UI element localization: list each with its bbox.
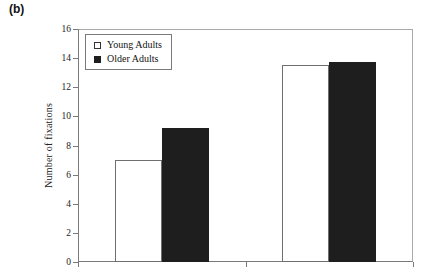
- legend-item-young-adults: Young Adults: [94, 39, 162, 51]
- legend-label-young-adults: Young Adults: [107, 39, 162, 51]
- bar-older-adults-group2: [329, 62, 376, 262]
- y-tick-mark-4: [73, 204, 78, 205]
- y-tick-mark-12: [73, 87, 78, 88]
- y-tick-label-10: 10: [40, 111, 71, 121]
- y-tick-label-12: 12: [40, 82, 71, 92]
- legend-swatch-older-adults: [94, 56, 101, 63]
- y-tick-label-8: 8: [40, 141, 71, 151]
- legend-item-older-adults: Older Adults: [94, 53, 162, 65]
- figure-panel-b: (b) Number of fixations Young Adults Old…: [0, 0, 425, 275]
- y-tick-mark-14: [73, 58, 78, 59]
- y-tick-label-6: 6: [40, 170, 71, 180]
- legend: Young Adults Older Adults: [85, 34, 172, 70]
- y-tick-mark-8: [73, 146, 78, 147]
- legend-swatch-young-adults: [94, 42, 101, 49]
- y-tick-mark-10: [73, 116, 78, 117]
- figure-label: (b): [9, 2, 24, 16]
- bar-older-adults-group1: [162, 128, 209, 262]
- y-tick-mark-2: [73, 233, 78, 234]
- y-tick-mark-6: [73, 175, 78, 176]
- y-tick-label-0: 0: [40, 257, 71, 267]
- x-tick-mark-3: [413, 262, 414, 267]
- y-tick-label-2: 2: [40, 228, 71, 238]
- bar-young-adults-group1: [115, 160, 162, 262]
- x-tick-mark-1: [78, 262, 79, 267]
- legend-label-older-adults: Older Adults: [107, 53, 158, 65]
- y-tick-mark-16: [73, 29, 78, 30]
- x-tick-mark-2: [246, 262, 247, 267]
- y-tick-label-16: 16: [40, 24, 71, 34]
- y-tick-label-14: 14: [40, 53, 71, 63]
- bar-young-adults-group2: [282, 65, 329, 262]
- y-tick-label-4: 4: [40, 199, 71, 209]
